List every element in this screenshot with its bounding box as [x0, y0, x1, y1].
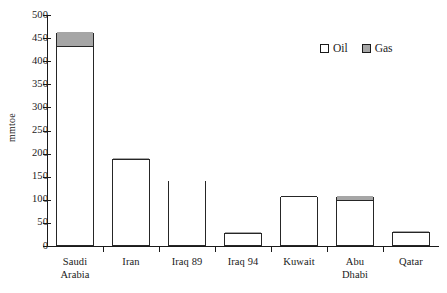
y-axis-tick-label: 200	[8, 148, 48, 159]
bar-segment-oil	[393, 233, 429, 245]
bar-segment-oil	[169, 180, 205, 245]
bar-segment-gas	[337, 196, 373, 201]
x-axis-tick	[103, 246, 104, 252]
x-axis-label-line: Iraq 89	[159, 255, 215, 268]
y-axis-tick-label: 300	[8, 102, 48, 113]
y-axis-tick-label: 150	[8, 171, 48, 182]
legend: Oil Gas	[320, 43, 393, 54]
y-axis-tick-label: 100	[8, 194, 48, 205]
x-axis-line	[47, 246, 439, 247]
y-axis-tick-label: 450	[8, 33, 48, 44]
bar-segment-gas	[113, 158, 149, 161]
x-axis-label-line: Iraq 94	[215, 255, 271, 268]
x-axis-tick	[159, 246, 160, 252]
x-axis-label-line: Dhabi	[327, 268, 383, 281]
bar-segment-oil	[113, 160, 149, 245]
x-axis-label-kuwait: Kuwait	[271, 255, 327, 268]
x-axis-label-line: Arabia	[47, 268, 103, 281]
legend-label-gas: Gas	[375, 43, 393, 54]
gas-swatch-icon	[362, 44, 371, 53]
bar-abu-dhabi	[336, 197, 374, 246]
x-axis-label-qatar: Qatar	[383, 255, 439, 268]
bar-kuwait	[280, 197, 318, 246]
bar-segment-gas	[393, 231, 429, 234]
x-axis-label-iraq-89: Iraq 89	[159, 255, 215, 268]
x-axis-tick	[383, 246, 384, 252]
legend-item-gas: Gas	[362, 43, 393, 54]
x-axis-label-line: Qatar	[383, 255, 439, 268]
x-axis-tick	[271, 246, 272, 252]
bar-segment-gas	[225, 232, 261, 234]
bar-qatar	[392, 232, 430, 246]
legend-label-oil: Oil	[333, 43, 348, 54]
y-axis-tick-label: 500	[8, 10, 48, 21]
bar-iraq-94	[224, 233, 262, 246]
bar-segment-gas	[281, 196, 317, 197]
legend-item-oil: Oil	[320, 43, 348, 54]
bar-iraq-89	[168, 181, 206, 246]
y-axis-tick-label: 350	[8, 79, 48, 90]
x-axis-label-saudi-arabia: SaudiArabia	[47, 255, 103, 281]
x-axis-label-line: Abu	[327, 255, 383, 268]
bar-segment-oil	[57, 47, 93, 245]
bar-saudi-arabia	[56, 33, 94, 246]
bar-chart: mmtoe 050100150200250300350400450500 Sau…	[0, 0, 447, 293]
x-axis-label-line: Saudi	[47, 255, 103, 268]
bar-segment-oil	[225, 234, 261, 245]
x-axis-label-abu-dhabi: AbuDhabi	[327, 255, 383, 281]
y-axis-tick-label: 400	[8, 56, 48, 67]
x-axis-label-iran: Iran	[103, 255, 159, 268]
x-axis-label-line: Iran	[103, 255, 159, 268]
bar-segment-oil	[337, 201, 373, 245]
x-axis-tick	[215, 246, 216, 252]
bar-segment-oil	[281, 197, 317, 245]
y-axis-tick-label: 250	[8, 125, 48, 136]
x-axis-label-iraq-94: Iraq 94	[215, 255, 271, 268]
bar-segment-gas	[57, 32, 93, 47]
oil-swatch-icon	[320, 44, 329, 53]
bar-iran	[112, 159, 150, 246]
y-axis-tick-label: 0	[8, 241, 48, 252]
x-axis-label-line: Kuwait	[271, 255, 327, 268]
x-axis-tick	[327, 246, 328, 252]
y-axis-tick-label: 50	[8, 217, 48, 228]
